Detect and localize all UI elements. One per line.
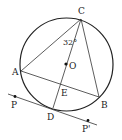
geometry-figure: C 32° O A E B P D P': [0, 0, 122, 140]
point-p-dot: [14, 95, 17, 98]
label-p-prime: P': [82, 124, 91, 134]
point-p2-dot: [87, 119, 90, 122]
label-b: B: [101, 100, 108, 110]
point-o-dot: [64, 62, 67, 65]
label-o: O: [69, 61, 76, 71]
label-angle: 32°: [63, 38, 77, 47]
label-a: A: [11, 67, 19, 77]
segment-ab: [21, 71, 99, 97]
segment-cb: [81, 19, 99, 97]
label-e: E: [61, 88, 68, 98]
label-d: D: [47, 112, 54, 122]
label-c: C: [78, 6, 85, 16]
label-p: P: [11, 100, 17, 110]
